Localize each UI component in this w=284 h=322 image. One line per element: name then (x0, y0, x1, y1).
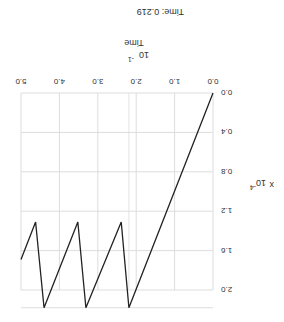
x-axis-scale-base: 10 (139, 50, 149, 60)
y-axis-scale-exp: -4 (250, 184, 256, 191)
line-chart: 0.01.02.03.04.05.00.00.40.81.21.62.0 x 1… (0, 0, 284, 322)
y-tick-label: 0.4 (220, 127, 232, 136)
x-tick-label: 0.0 (207, 77, 219, 86)
x-tick-label: 5.0 (15, 77, 27, 86)
time-status-label: Time: 0.219 (137, 7, 184, 17)
y-tick-label: 1.2 (220, 206, 232, 215)
y-tick-label: 0.8 (220, 167, 232, 176)
y-tick-label: 1.6 (220, 246, 232, 255)
y-axis-scale-base: 10 (256, 178, 266, 188)
y-tick-label: 0.0 (220, 88, 232, 97)
x-axis-label: Time (124, 38, 144, 48)
y-axis-label: x (269, 180, 274, 190)
series-line-x (21, 93, 213, 308)
x-tick-label: 3.0 (92, 77, 104, 86)
chart-container: 0.01.02.03.04.05.00.00.40.81.21.62.0 x 1… (0, 0, 284, 322)
x-tick-label: 2.0 (130, 77, 142, 86)
y-tick-label: 2.0 (220, 285, 232, 294)
axis-ticks: 0.01.02.03.04.05.00.00.40.81.21.62.0 (15, 77, 232, 294)
x-axis-scale-exp: -1 (128, 56, 134, 63)
x-tick-label: 1.0 (168, 77, 180, 86)
grid (21, 93, 213, 308)
x-tick-label: 4.0 (53, 77, 65, 86)
